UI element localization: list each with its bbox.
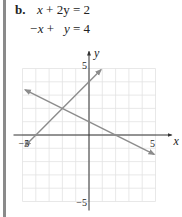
x-tick-label: −5 — [19, 138, 30, 149]
x-axis-label: x — [173, 134, 180, 148]
x-tick-label: 5 — [150, 138, 155, 149]
axes — [14, 52, 172, 211]
series-line-2 — [25, 70, 101, 146]
y-tick-label: 5 — [82, 60, 87, 71]
y-axis-label: y — [93, 46, 100, 60]
coordinate-plane: −555−5xy — [0, 0, 182, 217]
y-tick-label: −5 — [76, 197, 87, 208]
series-lines — [25, 70, 154, 154]
